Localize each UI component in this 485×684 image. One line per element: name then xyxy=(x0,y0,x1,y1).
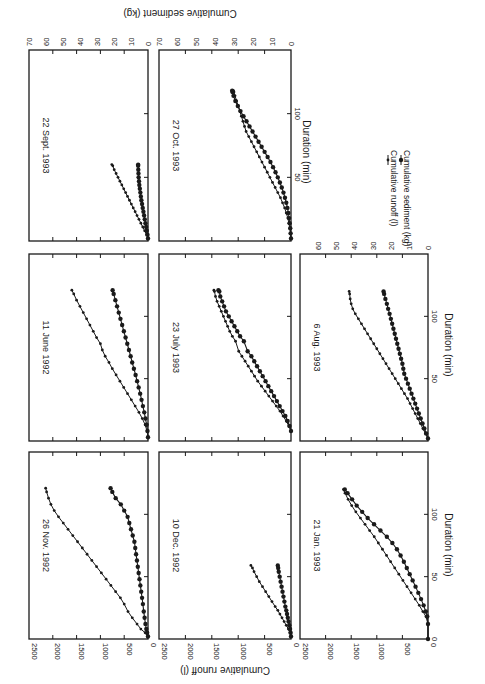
data-point xyxy=(348,290,351,293)
data-point xyxy=(398,352,402,356)
data-point xyxy=(403,392,406,395)
data-point xyxy=(146,435,150,439)
data-point xyxy=(234,340,237,343)
runoff-tick-label: 0 xyxy=(149,643,158,647)
data-point xyxy=(249,564,252,567)
sediment-tick-label: 20 xyxy=(249,38,258,46)
runoff-tick-label: 500 xyxy=(265,643,274,656)
data-point xyxy=(390,322,394,326)
data-point xyxy=(252,359,256,363)
data-point xyxy=(275,405,278,408)
data-point xyxy=(139,628,142,631)
data-point xyxy=(426,637,430,641)
sediment-tick-label: 20 xyxy=(387,242,396,250)
data-point xyxy=(70,289,73,292)
data-point xyxy=(279,613,282,616)
runoff-tick-label: 0 xyxy=(292,643,301,647)
legend-item-sediment: Cumulative sediment (kg) xyxy=(399,150,412,247)
panel-title: 11 June 1992 xyxy=(41,321,51,375)
data-point xyxy=(128,199,131,202)
data-point xyxy=(136,162,140,166)
duration-tick-label: 50 xyxy=(293,173,302,181)
data-point xyxy=(129,527,133,531)
data-point xyxy=(138,218,141,221)
data-point xyxy=(141,404,145,408)
data-point xyxy=(110,163,113,166)
panel: 0500100015002000250026 Nov. 1992 xyxy=(29,452,158,660)
data-point xyxy=(259,145,263,149)
data-point xyxy=(351,307,354,310)
data-point xyxy=(143,221,147,225)
data-point xyxy=(145,631,149,635)
data-point xyxy=(86,553,89,556)
data-point xyxy=(71,534,74,537)
data-point xyxy=(409,402,412,405)
data-point xyxy=(359,517,362,520)
runoff-series xyxy=(46,488,148,636)
data-point xyxy=(130,203,133,206)
figure-canvas: 0500100015002000250026 Nov. 199211 June … xyxy=(0,0,485,684)
data-point xyxy=(231,94,235,98)
data-point xyxy=(237,350,240,353)
data-point xyxy=(391,327,395,331)
data-point xyxy=(47,497,50,500)
data-point xyxy=(100,572,103,575)
data-point xyxy=(133,546,137,550)
data-point xyxy=(271,600,274,603)
data-point xyxy=(395,547,399,551)
data-point xyxy=(250,370,253,373)
data-point xyxy=(124,191,127,194)
sediment-tick-label: 70 xyxy=(155,38,164,46)
panel: 01020304050607022 Sept. 1993 xyxy=(25,38,153,241)
data-point xyxy=(119,180,122,183)
data-point xyxy=(136,571,140,575)
data-point xyxy=(401,366,405,370)
data-point xyxy=(420,421,424,425)
data-point xyxy=(284,608,288,612)
data-point xyxy=(125,515,129,519)
duration-tick-label: 100 xyxy=(293,107,302,120)
data-point xyxy=(95,565,98,568)
data-point xyxy=(133,373,137,377)
data-point xyxy=(348,292,351,295)
data-point xyxy=(354,312,357,315)
data-point xyxy=(44,487,47,490)
sediment-tick-label: 70 xyxy=(25,38,34,46)
data-point xyxy=(347,498,350,501)
data-point xyxy=(381,548,384,551)
data-point xyxy=(426,436,430,440)
data-point xyxy=(75,299,78,302)
data-point xyxy=(216,300,219,303)
data-point xyxy=(229,319,233,323)
data-point xyxy=(350,504,353,507)
data-point xyxy=(139,198,143,202)
data-point xyxy=(136,214,139,217)
data-point xyxy=(268,160,272,164)
panel-title: 10 Dec. 1992 xyxy=(171,519,181,573)
data-point xyxy=(283,414,287,418)
data-point xyxy=(349,297,352,300)
data-point xyxy=(127,521,131,525)
data-point xyxy=(123,335,127,339)
data-point xyxy=(251,567,254,570)
duration-tick-label: 50 xyxy=(430,572,439,580)
data-point xyxy=(263,379,267,383)
runoff-tick-label: 1500 xyxy=(212,643,221,660)
data-point xyxy=(231,335,234,338)
data-point xyxy=(397,573,400,576)
data-point xyxy=(122,187,125,190)
data-point xyxy=(271,165,275,169)
panels-group: 0500100015002000250026 Nov. 199211 June … xyxy=(25,38,440,660)
data-point xyxy=(289,634,293,638)
data-point xyxy=(277,574,281,578)
data-point xyxy=(378,352,381,355)
data-point xyxy=(232,324,236,328)
data-point xyxy=(253,134,257,138)
data-point xyxy=(81,547,84,550)
data-point xyxy=(99,342,102,345)
runoff-tick-label: 1000 xyxy=(377,643,386,660)
data-point xyxy=(385,362,388,365)
data-point xyxy=(267,595,270,598)
data-point xyxy=(389,317,393,321)
data-point xyxy=(288,631,292,635)
